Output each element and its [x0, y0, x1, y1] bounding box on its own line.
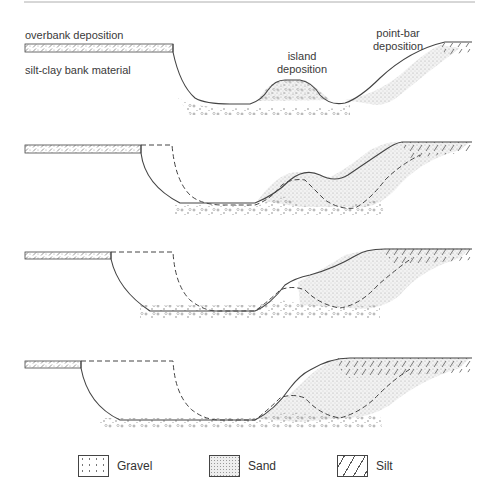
island-deposition-label: island deposition	[272, 50, 332, 76]
legend-gravel: Gravel	[78, 455, 152, 477]
legend-sand: Sand	[209, 455, 276, 477]
bank-material-label: silt-clay bank material	[25, 64, 131, 77]
legend-silt-label: Silt	[376, 459, 393, 473]
legend-silt: Silt	[337, 455, 393, 477]
point-bar-deposition-label: point-bar deposition	[368, 27, 428, 53]
legend-gravel-label: Gravel	[117, 459, 152, 473]
panel-stage-3	[25, 248, 472, 318]
overbank-deposition-label: overbank deposition	[25, 29, 123, 42]
silt-swatch	[337, 455, 368, 477]
sand-swatch	[209, 455, 240, 477]
pointbar-label-line1: point-bar	[368, 27, 428, 40]
island-label-line2: deposition	[272, 63, 332, 76]
island-label-line1: island	[272, 50, 332, 63]
gravel-swatch	[78, 455, 109, 477]
panel-stage-2	[25, 142, 472, 215]
pointbar-label-line2: deposition	[368, 40, 428, 53]
panel-stage-4	[25, 358, 472, 428]
legend-sand-label: Sand	[248, 459, 276, 473]
